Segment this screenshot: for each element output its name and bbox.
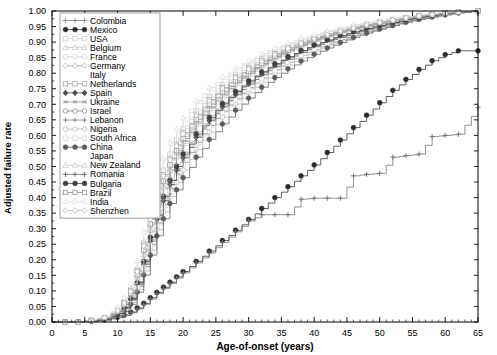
data-point-marker: [233, 108, 238, 113]
x-tick-label: 15: [145, 328, 155, 338]
data-point-marker: [286, 66, 291, 71]
y-tick-label: 0.85: [28, 53, 46, 63]
data-point-marker: [286, 54, 291, 59]
data-point-marker: [299, 59, 304, 64]
y-tick-label: 0.40: [28, 193, 46, 203]
data-point-marker: [73, 27, 78, 32]
data-point-marker: [246, 96, 251, 101]
data-point-marker: [246, 87, 250, 91]
data-point-marker: [259, 70, 264, 75]
x-tick-label: 50: [375, 328, 385, 338]
data-point-marker: [220, 121, 225, 126]
y-tick-label: 0.55: [28, 146, 46, 156]
y-tick-label: 0.75: [28, 84, 46, 94]
y-tick-label: 0.45: [28, 177, 46, 187]
data-point-marker: [443, 52, 448, 57]
data-point-marker: [325, 150, 330, 155]
data-point-marker: [73, 82, 77, 86]
data-point-marker: [194, 132, 199, 137]
data-point-marker: [377, 100, 382, 105]
data-point-marker: [73, 190, 77, 194]
data-point-marker: [390, 88, 395, 93]
data-point-marker: [338, 138, 343, 143]
data-point-marker: [299, 48, 304, 53]
data-point-marker: [82, 145, 87, 150]
data-point-marker: [351, 125, 356, 130]
x-tick-label: 65: [473, 328, 483, 338]
chart-svg: 0.000.050.100.150.200.250.300.350.400.45…: [0, 0, 497, 355]
data-point-marker: [325, 38, 330, 43]
data-point-marker: [73, 127, 78, 132]
data-point-marker: [312, 52, 317, 57]
data-point-marker: [63, 54, 68, 59]
y-tick-label: 0.50: [28, 162, 46, 172]
data-point-marker: [351, 35, 356, 40]
data-point-marker: [174, 187, 179, 192]
x-tick-label: 55: [407, 328, 417, 338]
data-point-marker: [82, 181, 87, 186]
x-tick-label: 45: [342, 328, 352, 338]
y-tick-label: 0.80: [28, 68, 46, 78]
data-point-marker: [181, 175, 186, 180]
data-point-marker: [220, 101, 225, 106]
x-tick-label: 0: [49, 328, 54, 338]
y-tick-label: 0.15: [28, 271, 46, 281]
x-tick-label: 10: [113, 328, 123, 338]
data-point-marker: [260, 77, 264, 81]
data-point-marker: [73, 109, 78, 114]
data-point-marker: [82, 190, 86, 194]
data-point-marker: [181, 152, 186, 157]
data-point-marker: [82, 136, 86, 140]
data-point-marker: [272, 195, 277, 200]
y-tick-label: 0.90: [28, 37, 46, 47]
data-point-marker: [168, 201, 173, 206]
data-point-marker: [299, 173, 304, 178]
x-tick-label: 35: [276, 328, 286, 338]
data-point-marker: [312, 163, 317, 168]
data-point-marker: [82, 36, 86, 40]
x-axis-label: Age-of-onset (years): [216, 341, 313, 352]
data-point-marker: [82, 82, 86, 86]
y-tick-label: 0.20: [28, 255, 46, 265]
data-point-marker: [286, 60, 290, 64]
data-point-marker: [272, 61, 277, 66]
data-point-marker: [207, 115, 212, 120]
data-point-marker: [273, 68, 277, 72]
data-point-marker: [286, 184, 291, 189]
data-point-marker: [73, 181, 78, 186]
x-tick-label: 40: [309, 328, 319, 338]
data-point-marker: [259, 85, 264, 90]
data-point-marker: [312, 42, 317, 47]
data-point-marker: [73, 145, 78, 150]
data-point-marker: [233, 89, 238, 94]
y-tick-label: 0.65: [28, 115, 46, 125]
data-point-marker: [63, 127, 68, 132]
y-tick-label: 0.30: [28, 224, 46, 234]
x-tick-label: 25: [211, 328, 221, 338]
x-tick-label: 60: [440, 328, 450, 338]
data-point-marker: [63, 27, 68, 32]
data-point-marker: [82, 54, 87, 59]
data-point-marker: [325, 46, 330, 51]
x-tick-label: 30: [244, 328, 254, 338]
data-point-marker: [63, 109, 68, 114]
data-point-marker: [364, 113, 369, 118]
y-tick-label: 0.25: [28, 239, 46, 249]
data-point-marker: [364, 31, 369, 36]
data-point-marker: [63, 145, 68, 150]
chart-figure: 0.000.050.100.150.200.250.300.350.400.45…: [0, 0, 497, 355]
data-point-marker: [430, 58, 435, 63]
legend-label: Shenzhen: [90, 206, 129, 216]
data-point-marker: [194, 155, 199, 160]
data-point-marker: [161, 216, 166, 221]
data-point-marker: [220, 110, 224, 114]
data-point-marker: [272, 75, 277, 80]
data-point-marker: [63, 36, 67, 40]
y-tick-label: 0.60: [28, 131, 46, 141]
y-tick-label: 0.70: [28, 100, 46, 110]
chart-legend[interactable]: ColombiaMexicoUSABelgiumFranceGermanyIta…: [60, 13, 160, 218]
data-point-marker: [207, 137, 212, 142]
data-point-marker: [82, 27, 87, 32]
data-point-marker: [417, 67, 422, 72]
data-point-marker: [82, 127, 87, 132]
